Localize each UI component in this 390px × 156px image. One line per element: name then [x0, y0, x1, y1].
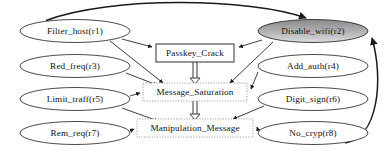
edge-add-auth-to-message-saturation: [251, 72, 258, 89]
node-filter-host-r1[interactable]: Filter_host(r1): [20, 20, 130, 43]
node-digit-sign-r6[interactable]: Digit_sign(r6): [258, 88, 368, 111]
node-label-manipulation-message: Manipulation_Message: [150, 123, 239, 133]
node-label-digit-sign-r6: Digit_sign(r6): [286, 94, 341, 104]
node-passkey-crack[interactable]: Passkey_Crack: [156, 44, 234, 62]
node-no-cryp-r8[interactable]: No_cryp(r8): [258, 122, 368, 145]
edge-disable-wifi-to-passkey-crack: [239, 40, 262, 47]
node-label-filter-host-r1: Filter_host(r1): [47, 26, 103, 36]
node-label-passkey-crack: Passkey_Crack: [166, 48, 224, 58]
edge-no-cryp-to-manipulation-message: [257, 127, 258, 130]
diagram-canvas: Filter_host(r1) Red_freq(r3) Limit_traff…: [0, 0, 390, 156]
node-label-limit-traff-r5: Limit_traff(r5): [47, 94, 104, 104]
edge-passkey-crack-to-message-saturation: [190, 62, 200, 84]
node-label-red-freq-r3: Red_freq(r3): [50, 61, 100, 71]
node-label-message-saturation: Message_Saturation: [156, 87, 233, 97]
node-disable-wifi-r2[interactable]: Disable_wifi(r2): [258, 20, 368, 43]
edge-digit-sign-to-manipulation-message: [233, 106, 264, 119]
node-label-rem-req-r7: Rem_req(r7): [50, 128, 99, 138]
edge-limit-traff-to-message-saturation: [130, 93, 140, 96]
edge-filter-host-to-passkey-crack: [122, 39, 152, 47]
node-limit-traff-r5[interactable]: Limit_traff(r5): [20, 88, 130, 111]
edge-message-saturation-to-manipulation-message: [190, 101, 200, 120]
edge-rem-req-to-manipulation-message: [130, 129, 134, 131]
node-message-saturation[interactable]: Message_Saturation: [143, 83, 247, 101]
node-label-disable-wifi-r2: Disable_wifi(r2): [281, 26, 345, 36]
node-manipulation-message[interactable]: Manipulation_Message: [137, 119, 253, 137]
diagram-svg: Filter_host(r1) Red_freq(r3) Limit_traff…: [0, 0, 390, 156]
node-red-freq-r3[interactable]: Red_freq(r3): [20, 55, 130, 78]
node-label-add-auth-r4: Add_auth(r4): [287, 61, 339, 71]
node-add-auth-r4[interactable]: Add_auth(r4): [258, 55, 368, 78]
node-rem-req-r7[interactable]: Rem_req(r7): [20, 122, 130, 145]
edge-filter-host-to-disable-wifi: [46, 3, 306, 21]
node-label-no-cryp-r8: No_cryp(r8): [289, 128, 337, 138]
